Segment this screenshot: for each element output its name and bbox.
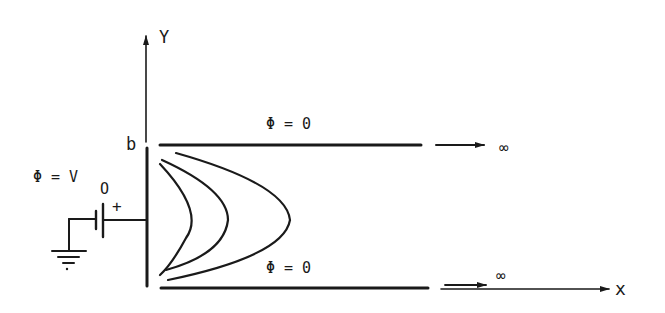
battery-polarity-label: +: [112, 197, 122, 216]
left-plate-potential-subscript: O: [100, 180, 109, 198]
top-plate-infinity-label: ∞: [499, 138, 509, 157]
bottom-plate-potential-label: Φ = 0: [266, 259, 311, 277]
top-plate-potential-label: Φ = 0: [266, 115, 311, 133]
ground-icon: [52, 251, 86, 270]
left-plate-potential-label: Φ = V: [33, 168, 78, 186]
equipotential-curve-inner: [160, 164, 192, 275]
y-axis-label: Y: [159, 27, 169, 47]
plate-height-label: b: [126, 134, 136, 154]
bottom-plate-infinity-label: ∞: [496, 266, 506, 285]
x-axis-label: x: [615, 278, 626, 299]
diagram-canvas: Y x b Φ = V O + Φ = 0 ∞ Φ = 0 ∞: [0, 0, 665, 313]
